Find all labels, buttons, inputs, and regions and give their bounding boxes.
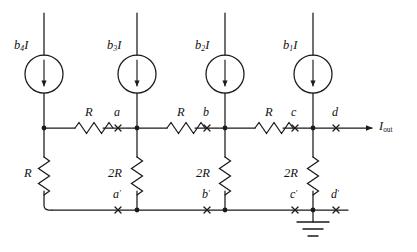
- node-c-prime-label: c′: [290, 188, 297, 200]
- shunt-resistor-c-label: 2R: [284, 167, 298, 180]
- node-d-prime-label: d′: [331, 188, 339, 200]
- junction-dot-col1-bus: [42, 126, 47, 131]
- source-b2-label: b2I: [195, 39, 209, 53]
- node-c-label: c: [291, 106, 296, 118]
- source-b3-label: b3I: [107, 39, 121, 53]
- ground-symbol: [297, 210, 329, 236]
- shunt-resistor-a-zigzag: [132, 157, 143, 195]
- shunt-resistor-a-label: 2R: [108, 167, 122, 180]
- node-b-prime-label: b′: [202, 188, 210, 200]
- source-b4-label: b4I: [14, 39, 28, 53]
- junction-dot-col2-rail: [135, 208, 140, 213]
- output-current-label: Iout: [379, 120, 392, 134]
- shunt-resistor-c-zigzag: [308, 157, 319, 195]
- series-resistor-3-label: R: [265, 106, 273, 119]
- top-bus: [44, 123, 372, 134]
- junction-dots: [42, 126, 316, 213]
- junction-dot-col4-rail: [311, 208, 316, 213]
- node-cross-markers: [115, 125, 339, 213]
- node-a-prime-label: a′: [113, 188, 121, 200]
- shunt-resistor-b-zigzag: [220, 157, 231, 195]
- node-b-label: b: [203, 106, 209, 118]
- branch-column-3: [206, 13, 244, 210]
- circuit-diagram: b4I b3I b2I b1I R R R R 2R 2R 2R a b c d…: [0, 0, 417, 252]
- shunt-resistor-left-label: R: [24, 167, 32, 180]
- node-d-label: d: [332, 106, 338, 118]
- junction-dot-col2-bus: [135, 126, 140, 131]
- junction-dot-col3-rail: [223, 208, 228, 213]
- branch-column-4: [294, 13, 332, 210]
- shunt-resistor-left-zigzag: [39, 157, 50, 195]
- junction-dot-col3-bus: [223, 126, 228, 131]
- shunt-resistor-b-label: 2R: [196, 167, 210, 180]
- series-resistor-2-label: R: [177, 106, 185, 119]
- junction-dot-col4-bus: [311, 126, 316, 131]
- node-a-label: a: [114, 106, 120, 118]
- source-b1-label: b1I: [283, 39, 297, 53]
- branch-column-1: [25, 13, 63, 210]
- series-resistor-1-label: R: [85, 106, 93, 119]
- branch-column-2: [118, 13, 156, 210]
